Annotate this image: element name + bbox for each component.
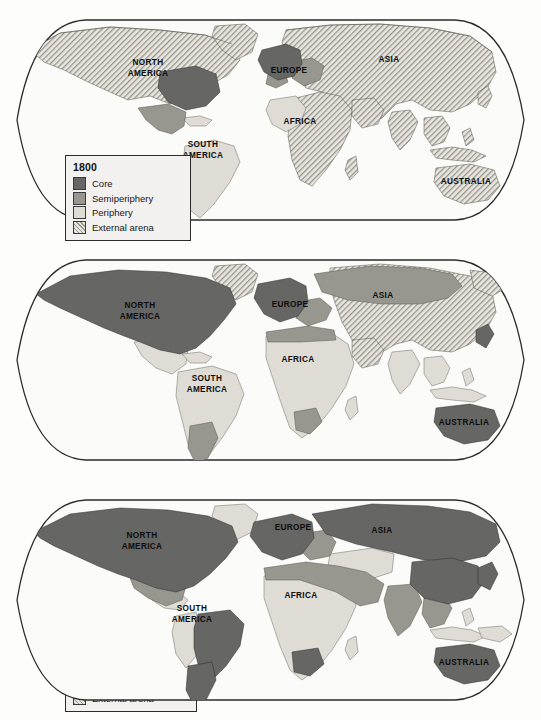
label-north-america-line1: NORTH bbox=[125, 301, 156, 310]
label-north-america-line1: NORTH bbox=[133, 58, 164, 67]
label-asia: ASIA bbox=[379, 55, 400, 64]
map-panel-1800: NORTH AMERICA SOUTH AMERICA EUROPE AFRIC… bbox=[0, 0, 541, 240]
label-asia: ASIA bbox=[373, 291, 394, 300]
label-europe: EUROPE bbox=[271, 66, 308, 75]
legend-item-periphery: Periphery bbox=[73, 206, 182, 219]
label-asia: ASIA bbox=[372, 526, 393, 535]
label-europe: EUROPE bbox=[275, 523, 312, 532]
world-map-2000: NORTH AMERICA SOUTH AMERICA EUROPE AFRIC… bbox=[0, 480, 541, 720]
label-africa: AFRICA bbox=[283, 117, 316, 126]
label-north-america-line2: AMERICA bbox=[120, 312, 161, 321]
label-australia: AUSTRALIA bbox=[439, 658, 489, 667]
label-north-america-line2: AMERICA bbox=[122, 542, 163, 551]
label-europe: EUROPE bbox=[272, 300, 309, 309]
world-map-1900: NORTH AMERICA SOUTH AMERICA EUROPE AFRIC… bbox=[0, 240, 541, 480]
legend-label-core: Core bbox=[92, 178, 113, 189]
label-africa: AFRICA bbox=[281, 355, 314, 364]
label-south-america-line2: AMERICA bbox=[172, 615, 213, 624]
label-south-america-line2: AMERICA bbox=[187, 385, 228, 394]
swatch-external-arena-icon bbox=[73, 221, 86, 234]
label-south-america-line1: SOUTH bbox=[177, 604, 207, 613]
label-south-america-line1: SOUTH bbox=[188, 140, 218, 149]
label-australia: AUSTRALIA bbox=[441, 177, 491, 186]
legend-item-semiperiphery: Semiperiphery bbox=[73, 192, 182, 205]
legend-label-semiperiphery: Semiperiphery bbox=[92, 193, 153, 204]
swatch-core-icon bbox=[73, 177, 86, 190]
legend-item-external-arena: External arena bbox=[73, 221, 182, 234]
label-north-america-line2: AMERICA bbox=[128, 69, 169, 78]
label-africa: AFRICA bbox=[284, 591, 317, 600]
swatch-semiperiphery-icon bbox=[73, 192, 86, 205]
map-panel-2000: NORTH AMERICA SOUTH AMERICA EUROPE AFRIC… bbox=[0, 480, 541, 720]
map-panel-1900: NORTH AMERICA SOUTH AMERICA EUROPE AFRIC… bbox=[0, 240, 541, 480]
legend-label-external-arena: External arena bbox=[92, 222, 154, 233]
world-system-map-figure: NORTH AMERICA SOUTH AMERICA EUROPE AFRIC… bbox=[0, 0, 541, 720]
label-south-america-line1: SOUTH bbox=[192, 374, 222, 383]
legend-1800: 1800 Core Semiperiphery Periphery Extern… bbox=[65, 155, 191, 241]
legend-item-core: Core bbox=[73, 177, 182, 190]
label-australia: AUSTRALIA bbox=[439, 418, 489, 427]
label-north-america-line1: NORTH bbox=[127, 531, 158, 540]
legend-title: 1800 bbox=[73, 161, 182, 173]
swatch-periphery-icon bbox=[73, 206, 86, 219]
legend-label-periphery: Periphery bbox=[92, 207, 133, 218]
